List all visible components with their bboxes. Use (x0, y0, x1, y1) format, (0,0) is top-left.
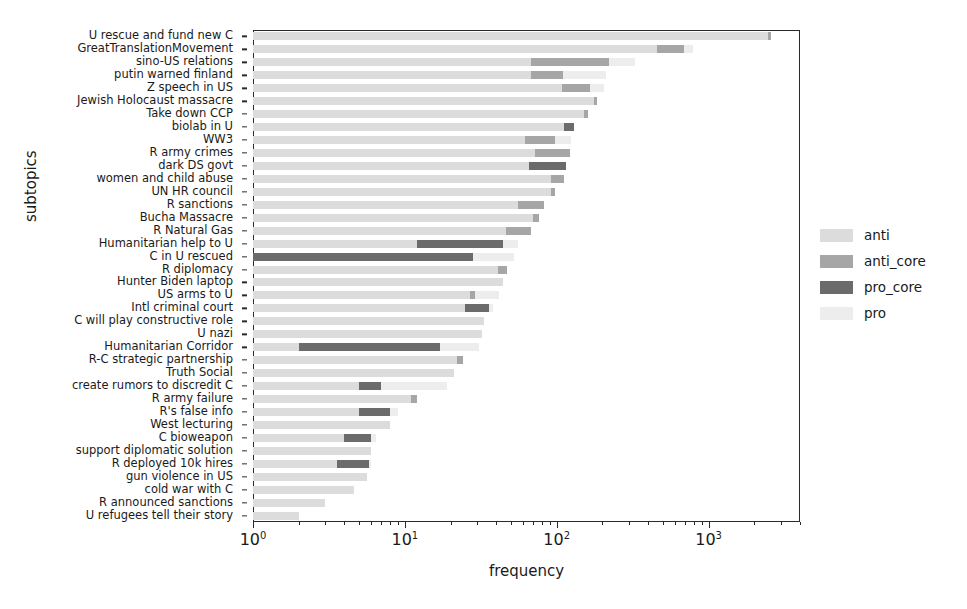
bar-segment-pro (440, 343, 480, 351)
y-tick-mark (242, 398, 247, 399)
x-tick-minor (511, 522, 512, 525)
x-tick-label: 100 (240, 530, 267, 549)
x-tick-major (557, 522, 558, 528)
x-tick-major (709, 522, 710, 528)
bar-row (253, 434, 800, 442)
bar-row (253, 499, 800, 507)
y-tick-mark (242, 204, 247, 205)
bar-segment-pro (590, 84, 604, 92)
x-tick-minor (629, 522, 630, 525)
bar-row (253, 395, 800, 403)
y-tick-mark (242, 360, 247, 361)
y-tick-mark (242, 515, 247, 516)
x-tick-minor (299, 522, 300, 525)
bar-segment-anti_core (535, 149, 570, 157)
bar-row (253, 369, 800, 377)
bar-segment-anti (253, 110, 584, 118)
bar-segment-anti (253, 149, 535, 157)
y-tick-label: cold war with C (145, 484, 233, 496)
legend-item-anti_core[interactable]: anti_core (820, 248, 960, 274)
y-tick-mark (242, 334, 247, 335)
bar-segment-anti (253, 278, 503, 286)
bar-segment-anti_core (457, 356, 463, 364)
y-tick-mark (242, 411, 247, 412)
legend-swatch-pro_core (820, 281, 853, 294)
y-tick-mark (242, 476, 247, 477)
x-tick-minor (533, 522, 534, 525)
y-tick-label: biolab in U (172, 121, 233, 133)
bar-segment-pro_core (564, 123, 574, 131)
x-tick-minor (648, 522, 649, 525)
x-tick-minor (451, 522, 452, 525)
y-axis-tick-labels: U rescue and fund new CGreatTranslationM… (0, 30, 247, 522)
bar-segment-anti_core (551, 188, 555, 196)
bar-row (253, 45, 800, 53)
legend: antianti_corepro_corepro (820, 222, 960, 326)
bar-segment-anti (253, 447, 371, 455)
bar-segment-anti (253, 356, 457, 364)
y-tick-label: support diplomatic solution (76, 445, 233, 457)
x-tick-minor (542, 522, 543, 525)
y-tick-label: R diplomacy (162, 264, 233, 276)
y-tick-label: Truth Social (166, 367, 233, 379)
x-axis-title: frequency (253, 562, 800, 580)
bar-row (253, 84, 800, 92)
bar-row (253, 188, 800, 196)
bar-segment-pro (475, 291, 499, 299)
bar-segment-anti (253, 136, 525, 144)
bar-row (253, 278, 800, 286)
y-tick-mark (242, 165, 247, 166)
x-tick-minor (477, 522, 478, 525)
bar-segment-anti (253, 291, 470, 299)
bar-segment-anti (253, 201, 518, 209)
legend-item-pro[interactable]: pro (820, 300, 960, 326)
bar-segment-anti (253, 434, 344, 442)
bar-segment-anti_core (525, 136, 555, 144)
y-tick-mark (242, 191, 247, 192)
y-tick-label: sino-US relations (136, 57, 233, 69)
y-tick-mark (242, 321, 247, 322)
y-tick-label: Humanitarian help to U (99, 238, 233, 250)
y-tick-label: WW3 (203, 134, 233, 146)
legend-swatch-anti_core (820, 255, 853, 268)
y-tick-mark (242, 385, 247, 386)
x-tick-minor (325, 522, 326, 525)
bar-segment-anti_core (533, 214, 538, 222)
y-tick-label: R announced sanctions (99, 497, 233, 509)
y-tick-label: gun violence in US (126, 471, 233, 483)
y-tick-label: dark DS govt (158, 160, 233, 172)
bar-segment-anti_core (531, 58, 608, 66)
bar-segment-anti_core (657, 45, 684, 53)
bar-row (253, 97, 800, 105)
y-tick-label: R-C strategic partnership (89, 354, 233, 366)
y-tick-label: Humanitarian Corridor (104, 341, 233, 353)
y-tick-mark (242, 502, 247, 503)
bar-row (253, 162, 800, 170)
y-tick-mark (242, 217, 247, 218)
y-tick-label: Hunter Biden laptop (117, 277, 233, 289)
y-tick-label: Bucha Massacre (140, 212, 233, 224)
legend-item-anti[interactable]: anti (820, 222, 960, 248)
legend-item-pro_core[interactable]: pro_core (820, 274, 960, 300)
bar-segment-anti (253, 240, 417, 248)
bar-row (253, 356, 800, 364)
y-tick-label: Intl criminal court (131, 303, 233, 315)
bar-row (253, 149, 800, 157)
bar-segment-pro (390, 408, 398, 416)
bar-segment-anti_core (584, 110, 587, 118)
bar-segment-anti (253, 395, 411, 403)
figure-canvas: subtopics U rescue and fund new CGreatTr… (0, 0, 967, 609)
bar-segment-anti (253, 486, 354, 494)
y-tick-label: C bioweapon (159, 432, 233, 444)
bar-row (253, 512, 800, 520)
y-tick-mark (242, 230, 247, 231)
y-tick-label: R army crimes (150, 147, 233, 159)
bar-segment-pro_core (417, 240, 503, 248)
y-tick-mark (242, 282, 247, 283)
y-tick-mark (242, 114, 247, 115)
bar-segment-pro_core (359, 408, 390, 416)
legend-label: anti_core (864, 253, 926, 269)
bar-row (253, 473, 800, 481)
bar-segment-anti_core (518, 201, 543, 209)
x-tick-minor (344, 522, 345, 525)
